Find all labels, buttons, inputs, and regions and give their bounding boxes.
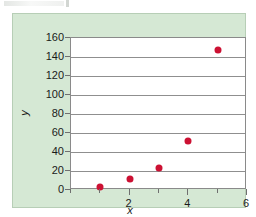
y-axis-tick-label: 160 (24, 32, 64, 43)
x-axis-title: x (13, 204, 247, 216)
x-axis-tick-minor (99, 189, 100, 193)
y-axis-tick (65, 56, 70, 57)
y-axis-tick (65, 113, 70, 114)
x-axis-tick-minor (217, 189, 218, 193)
y-axis-tick-label: 0 (24, 184, 64, 195)
scatter-plot-figure: 020406080100120140160 246 y x (0, 0, 256, 217)
gridline (71, 57, 245, 58)
y-axis-tick (65, 94, 70, 95)
data-point (156, 165, 163, 172)
scan-artifact-mark (66, 0, 69, 7)
x-axis-tick-major (246, 189, 247, 195)
y-axis-tick (65, 75, 70, 76)
y-axis-tick-label: 80 (24, 108, 64, 119)
gridline (71, 76, 245, 77)
x-axis-tick-major (129, 189, 130, 195)
y-axis-tick-label: 40 (24, 146, 64, 157)
data-point (126, 175, 133, 182)
gridline (71, 95, 245, 96)
y-axis-tick (65, 170, 70, 171)
y-axis-tick (65, 37, 70, 38)
plot-area (70, 37, 246, 189)
gridline (71, 114, 245, 115)
data-point (97, 184, 104, 191)
data-point (185, 137, 192, 144)
gridline (71, 133, 245, 134)
y-axis-title: y (18, 107, 30, 119)
y-axis-tick-label: 100 (24, 89, 64, 100)
x-axis-tick-minor (70, 189, 71, 193)
chart-panel: 020406080100120140160 246 y x (12, 13, 246, 208)
data-point (214, 47, 221, 54)
gridline (71, 152, 245, 153)
scan-artifact (4, 1, 64, 6)
y-axis-tick (65, 132, 70, 133)
y-axis-tick-label: 20 (24, 165, 64, 176)
x-axis-tick-major (187, 189, 188, 195)
x-axis-tick-minor (158, 189, 159, 193)
y-axis-tick-label: 140 (24, 51, 64, 62)
y-axis-tick (65, 151, 70, 152)
y-axis-tick-label: 60 (24, 127, 64, 138)
y-axis-tick-label: 120 (24, 70, 64, 81)
